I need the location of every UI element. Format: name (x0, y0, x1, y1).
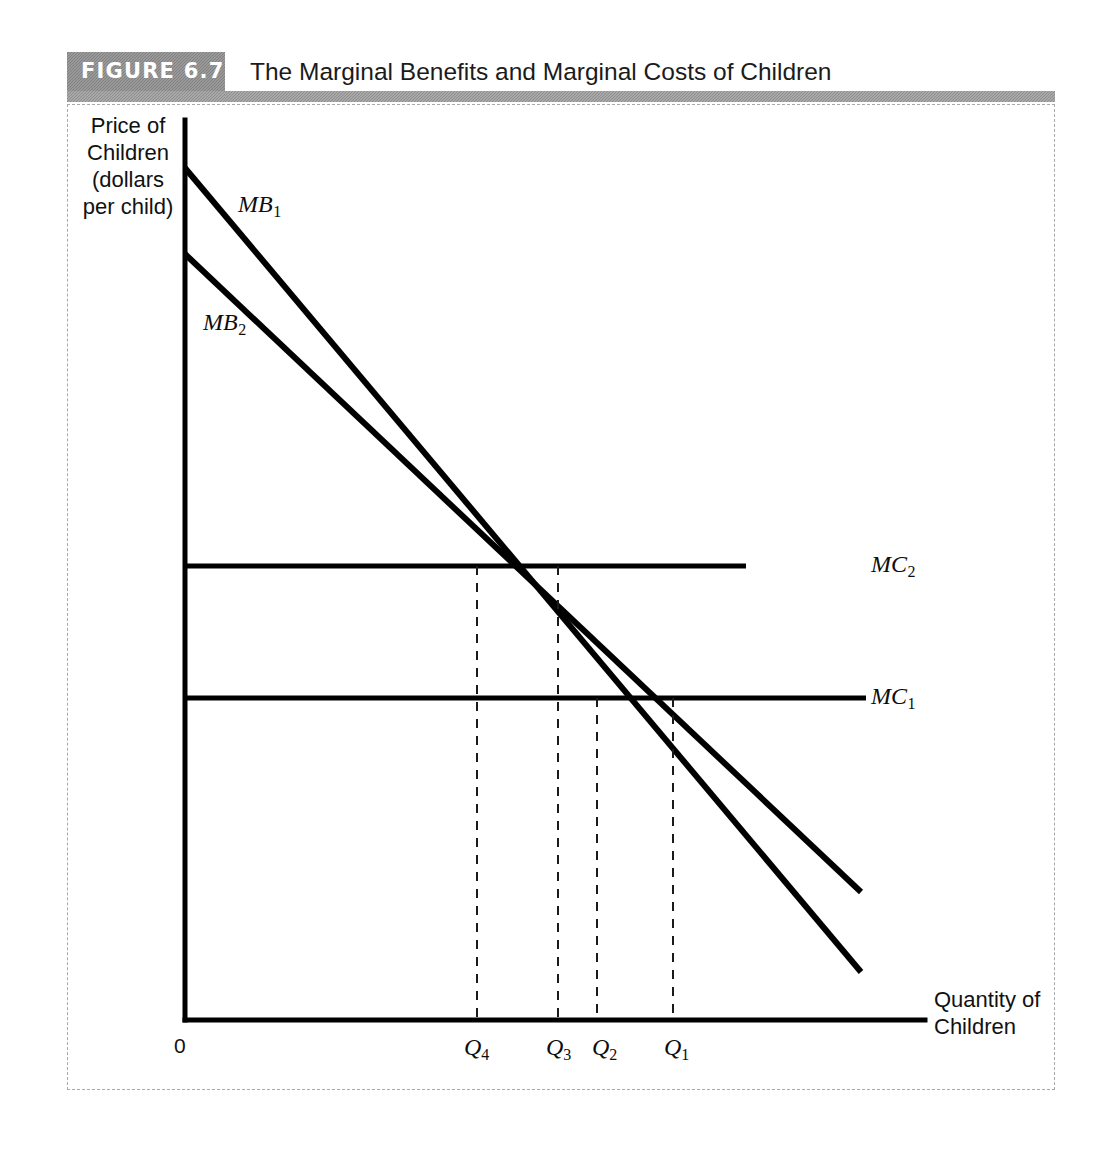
figure-title: The Marginal Benefits and Marginal Costs… (250, 57, 831, 86)
curve-label-mc1: MC1 (871, 684, 915, 711)
figure-number-label: FIGURE 6.7 (81, 61, 224, 82)
x-tick-label-q3: Q3 (546, 1035, 571, 1062)
header-rule (225, 91, 1055, 102)
x-tick-q2-subscript: 2 (609, 1046, 617, 1063)
curve-label-mc1-text: MC (871, 683, 907, 709)
y-axis-title: Price ofChildren(dollarsper child) (76, 112, 180, 220)
curve-label-mb2: MB2 (203, 310, 246, 337)
origin-label: 0 (174, 1035, 186, 1056)
curve-label-mb1-subscript: 1 (273, 203, 281, 220)
curve-label-mc2-subscript: 2 (908, 563, 916, 580)
x-tick-q1-subscript: 1 (681, 1046, 689, 1063)
x-tick-q4-text: Q (464, 1034, 481, 1060)
curve-label-mb2-text: MB (203, 309, 238, 335)
x-tick-label-q1: Q1 (664, 1035, 689, 1062)
x-tick-q1-text: Q (664, 1034, 681, 1060)
x-tick-label-q2: Q2 (592, 1035, 617, 1062)
header-rule-left (67, 91, 225, 102)
figure-header: FIGURE 6.7 The Marginal Benefits and Mar… (67, 52, 1055, 102)
curve-label-mc2-text: MC (871, 551, 907, 577)
x-tick-label-q4: Q4 (464, 1035, 489, 1062)
curve-label-mc2: MC2 (871, 552, 915, 579)
x-tick-q3-text: Q (546, 1034, 563, 1060)
figure-panel (67, 104, 1055, 1090)
figure-number-badge: FIGURE 6.7 (67, 52, 225, 91)
curve-label-mb1: MB1 (238, 192, 281, 219)
curve-label-mc1-subscript: 1 (908, 695, 916, 712)
x-axis-title: Quantity ofChildren (934, 986, 1040, 1040)
figure-container: FIGURE 6.7 The Marginal Benefits and Mar… (0, 0, 1105, 1156)
curve-label-mb2-subscript: 2 (238, 321, 246, 338)
x-tick-q2-text: Q (592, 1034, 609, 1060)
curve-label-mb1-text: MB (238, 191, 273, 217)
x-tick-q4-subscript: 4 (481, 1046, 489, 1063)
x-tick-q3-subscript: 3 (563, 1046, 571, 1063)
